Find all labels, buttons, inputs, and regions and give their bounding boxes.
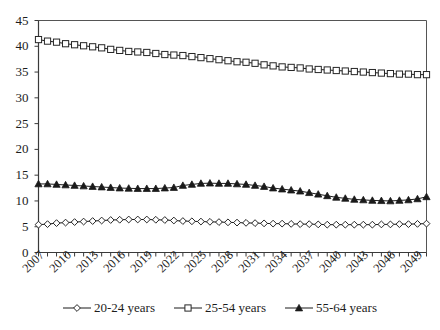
y-tick-label: 30: [3, 90, 29, 106]
legend-entry[interactable]: 25-54 years: [174, 300, 266, 316]
y-tick-label: 40: [3, 38, 29, 54]
legend-marker-diamond-icon: [63, 302, 91, 314]
y-tick-label: 5: [3, 219, 29, 235]
legend-entry-label: 55-64 years: [316, 300, 377, 316]
legend-marker-square-icon: [174, 302, 202, 314]
legend-entry[interactable]: 55-64 years: [285, 300, 377, 316]
y-tick-label: 0: [3, 245, 29, 261]
series-3: [35, 180, 430, 204]
plot-area: [0, 0, 440, 330]
series-1: [35, 216, 430, 228]
y-tick-label: 35: [3, 64, 29, 80]
plot-frame: [39, 21, 427, 253]
y-tick-label: 15: [3, 167, 29, 183]
y-tick-label: 20: [3, 141, 29, 157]
legend-entry-label: 25-54 years: [205, 300, 266, 316]
legend-entry-label: 20-24 years: [94, 300, 155, 316]
y-tick-label: 10: [3, 193, 29, 209]
line-chart: 051015202530354045 200720102013201620192…: [0, 0, 440, 330]
y-tick-label: 25: [3, 116, 29, 132]
series-2: [35, 36, 429, 77]
y-tick-label: 45: [3, 13, 29, 29]
chart-legend: 20-24 years25-54 years55-64 years: [0, 300, 440, 316]
legend-entry[interactable]: 20-24 years: [63, 300, 155, 316]
legend-marker-triangle-icon: [285, 302, 313, 314]
